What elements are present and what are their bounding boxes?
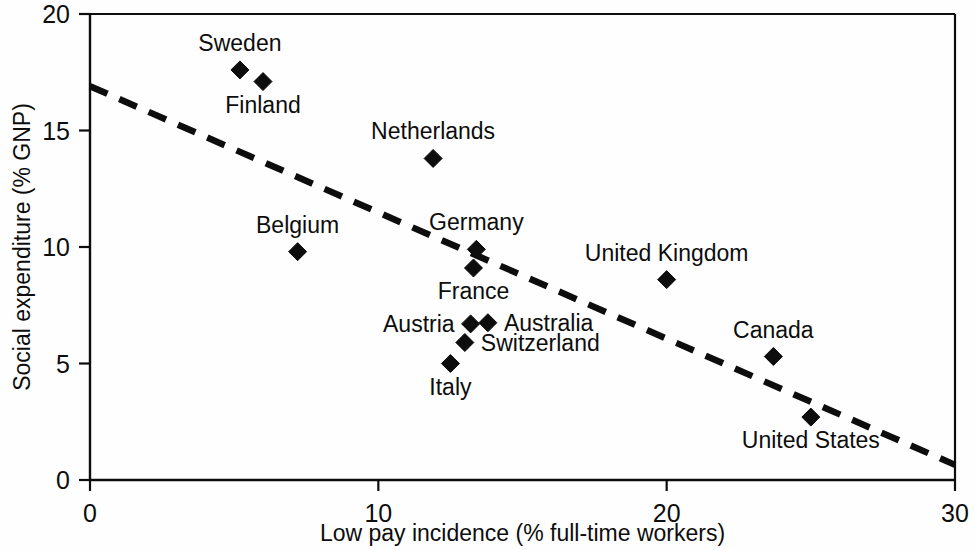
data-point-label: France — [438, 278, 510, 304]
y-tick-label: 10 — [42, 233, 70, 261]
data-point-label: United States — [742, 427, 880, 453]
y-axis-title: Social expenditure (% GNP) — [9, 103, 35, 391]
data-point-marker[interactable] — [764, 348, 782, 366]
data-point-label: Switzerland — [481, 330, 600, 356]
data-point-label: Canada — [733, 317, 814, 343]
scatter-chart-figure: 051015200102030Low pay incidence (% full… — [0, 0, 975, 550]
y-tick-label: 20 — [42, 0, 70, 28]
data-point-label: Finland — [225, 92, 300, 118]
data-point-marker[interactable] — [254, 73, 272, 91]
data-point-label: United Kingdom — [585, 240, 749, 266]
data-point-marker[interactable] — [231, 61, 249, 79]
x-axis-title: Low pay incidence (% full-time workers) — [320, 520, 725, 546]
data-point-marker[interactable] — [658, 271, 676, 289]
data-point-marker[interactable] — [289, 243, 307, 261]
data-point-label: Germany — [429, 209, 524, 235]
trend-line-dashed — [90, 86, 955, 465]
data-point-marker[interactable] — [464, 259, 482, 277]
data-point-marker[interactable] — [424, 149, 442, 167]
x-tick-label: 0 — [83, 499, 97, 527]
data-point-label: Belgium — [256, 212, 339, 238]
data-point-label: Austria — [383, 311, 455, 337]
data-point-marker[interactable] — [441, 355, 459, 373]
y-tick-label: 15 — [42, 117, 70, 145]
x-tick-label: 30 — [941, 499, 969, 527]
plot-area: 051015200102030Low pay incidence (% full… — [0, 0, 975, 550]
data-point-label: Sweden — [198, 30, 281, 56]
y-tick-label: 0 — [56, 466, 70, 494]
data-point-label: Italy — [429, 374, 472, 400]
data-point-marker[interactable] — [462, 315, 480, 333]
data-point-label: Netherlands — [371, 118, 495, 144]
y-tick-label: 5 — [56, 350, 70, 378]
data-point-marker[interactable] — [802, 408, 820, 426]
data-point-marker[interactable] — [456, 334, 474, 352]
